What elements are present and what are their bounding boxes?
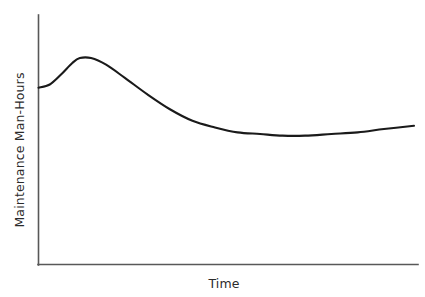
x-axis-label: Time: [207, 276, 239, 291]
maintenance-man-hours-line-chart: Maintenance Man-Hours Time: [0, 0, 425, 297]
chart-container: Maintenance Man-Hours Time: [0, 0, 425, 297]
y-axis-label: Maintenance Man-Hours: [12, 72, 27, 227]
chart-background: [0, 0, 425, 297]
